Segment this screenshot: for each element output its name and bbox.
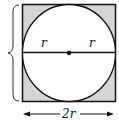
arrowhead-right-icon [107, 112, 114, 117]
width-label: 2r [61, 107, 77, 121]
arrowhead-left-icon [23, 112, 30, 117]
inscribed-circle-diagram: r r 2r [0, 0, 119, 124]
height-brace [8, 5, 19, 101]
center-point [67, 51, 71, 55]
